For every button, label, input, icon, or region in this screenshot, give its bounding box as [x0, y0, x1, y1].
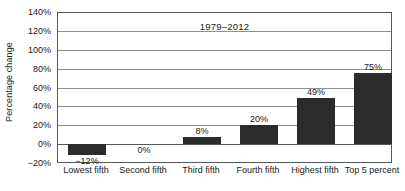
y-axis-title-label: Percentage change	[4, 42, 14, 122]
y-tick-label-100: 100%	[28, 45, 51, 55]
y-tick-label-20: 20%	[33, 120, 51, 130]
bar-third-fifth	[183, 137, 221, 145]
bar-value-highest-fifth: 49%	[307, 87, 325, 97]
y-tick-label-80: 80%	[33, 64, 51, 74]
x-tick-label-third-fifth: Third fifth	[182, 165, 220, 175]
bar-value-fourth-fifth: 20%	[250, 114, 268, 124]
bar-top-5-percent	[354, 73, 392, 144]
y-tick-label-40: 40%	[33, 101, 51, 111]
bar-value-second-fifth: 0%	[137, 145, 150, 155]
bar-fourth-fifth	[240, 125, 278, 144]
x-tick-label-highest-fifth: Highest fifth	[291, 165, 339, 175]
plot-area: 1979–2012 −12% 0% 8% 20% 49% 75%	[57, 12, 392, 163]
y-axis-tick-labels: 140% 120% 100% 80% 60% 40% 20% 0% −20%	[18, 0, 54, 191]
x-tick-label-lowest-fifth: Lowest fifth	[63, 165, 109, 175]
bar-lowest-fifth	[68, 144, 106, 155]
y-tick-label-120: 120%	[28, 26, 51, 36]
gridline-60	[58, 88, 391, 89]
gridline-zero	[58, 144, 391, 145]
gridline-20	[58, 125, 391, 126]
x-tick-label-top-5-percent: Top 5 percent	[345, 165, 400, 175]
x-tick-label-second-fifth: Second fifth	[119, 165, 167, 175]
y-tick-label-neg20: −20%	[28, 158, 51, 168]
bar-value-third-fifth: 8%	[195, 126, 208, 136]
x-tick-label-fourth-fifth: Fourth fifth	[236, 165, 279, 175]
bar-highest-fifth	[297, 98, 335, 144]
gridline-40	[58, 106, 391, 107]
gridline-100	[58, 50, 391, 51]
gridline-80	[58, 69, 391, 70]
bar-value-top-5-percent: 75%	[364, 62, 382, 72]
y-tick-label-0: 0%	[38, 139, 51, 149]
y-tick-label-140: 140%	[28, 7, 51, 17]
percentage-change-bar-chart: Percentage change 140% 120% 100% 80% 60%…	[0, 0, 405, 191]
chart-title: 1979–2012	[58, 21, 391, 32]
x-axis-tick-labels: Lowest fifth Second fifth Third fifth Fo…	[57, 165, 392, 185]
y-tick-label-60: 60%	[33, 83, 51, 93]
y-axis-title: Percentage change	[0, 0, 18, 163]
